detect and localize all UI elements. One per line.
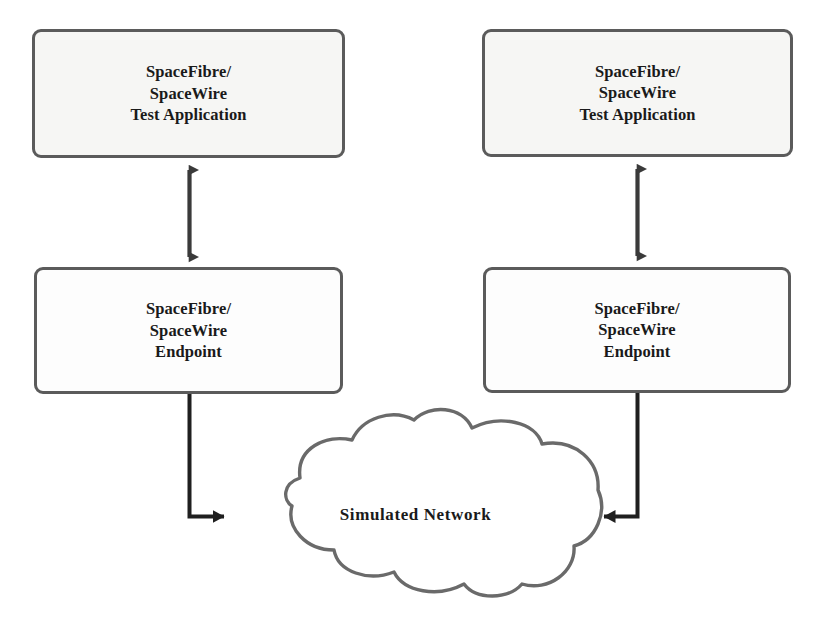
node-spacefibre-spacewire-endpoint-right[interactable]: SpaceFibre/ SpaceWire Endpoint xyxy=(483,267,791,393)
network-cloud-shape[interactable] xyxy=(286,410,602,596)
node-label: SpaceFibre/ SpaceWire Endpoint xyxy=(146,298,231,363)
network-cloud-label: Simulated Network xyxy=(248,505,583,525)
connector-endpoint-right-to-network xyxy=(604,393,638,517)
diagram-canvas: SpaceFibre/ SpaceWire Test Application S… xyxy=(0,0,820,621)
node-spacefibre-spacewire-endpoint-left[interactable]: SpaceFibre/ SpaceWire Endpoint xyxy=(34,267,343,394)
node-label: SpaceFibre/ SpaceWire Test Application xyxy=(579,61,695,126)
node-label: SpaceFibre/ SpaceWire Test Application xyxy=(130,61,246,126)
node-label: SpaceFibre/ SpaceWire Endpoint xyxy=(594,298,679,363)
connector-endpoint-left-to-network xyxy=(190,394,225,517)
node-spacefibre-spacewire-test-application-right[interactable]: SpaceFibre/ SpaceWire Test Application xyxy=(482,29,793,157)
node-spacefibre-spacewire-test-application-left[interactable]: SpaceFibre/ SpaceWire Test Application xyxy=(32,29,345,158)
